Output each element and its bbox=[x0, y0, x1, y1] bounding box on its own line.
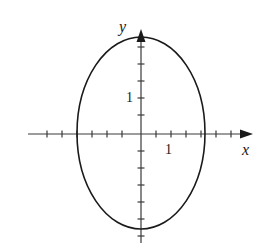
x-axis-tick-label-1: 1 bbox=[165, 143, 172, 157]
x-axis-label: x bbox=[242, 142, 249, 158]
x-axis-arrow-icon bbox=[240, 130, 253, 139]
y-axis-tick-label-1: 1 bbox=[126, 91, 133, 105]
graph-figure: y x 1 1 bbox=[0, 0, 271, 247]
y-axis-arrow-icon bbox=[137, 29, 146, 42]
coordinate-plane-svg bbox=[0, 0, 271, 247]
y-axis-label: y bbox=[119, 19, 126, 35]
